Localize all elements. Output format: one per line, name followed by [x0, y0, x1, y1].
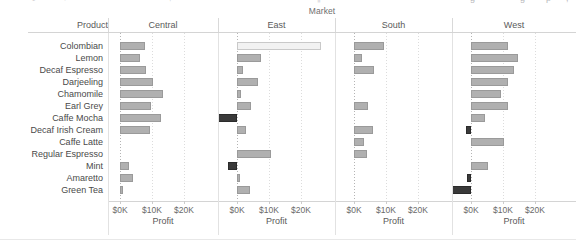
bar[interactable] [120, 78, 153, 86]
axis-tick-label: $0K [455, 205, 487, 215]
bar[interactable] [120, 174, 133, 182]
panel-west [452, 33, 576, 201]
column-group-title: Market [0, 6, 576, 16]
plot-region [0, 33, 576, 201]
market-label: Market [309, 6, 336, 16]
axis-line-east [218, 201, 335, 202]
gridline-20000 [535, 33, 536, 199]
axis-tick-label: $10K [136, 205, 168, 215]
axis-tick [152, 201, 153, 204]
axis-title-east[interactable]: Profit [218, 216, 335, 226]
bar[interactable] [471, 114, 485, 122]
axis-region: $0K$10K$20KProfit$0K$10K$20KProfit$0K$10… [0, 201, 576, 241]
bar[interactable] [120, 90, 163, 98]
bar[interactable] [237, 90, 241, 98]
bar[interactable] [237, 78, 258, 86]
bar[interactable] [237, 42, 321, 50]
bar[interactable] [354, 150, 367, 158]
toolbar-item-1[interactable]: ← [62, 0, 71, 3]
bar[interactable] [354, 54, 362, 62]
bar[interactable] [354, 102, 368, 110]
toolbar-item-7[interactable]: , [566, 0, 569, 3]
axis-tick [471, 201, 472, 204]
bar[interactable] [452, 186, 471, 194]
panel-divider-1 [218, 33, 219, 201]
header-product-column[interactable]: Product [0, 18, 113, 32]
bar[interactable] [228, 162, 237, 170]
bar[interactable] [120, 186, 123, 194]
bar[interactable] [354, 66, 374, 74]
bar[interactable] [237, 66, 243, 74]
axis-tick-label: $20K [402, 205, 434, 215]
header-divider-3 [452, 18, 453, 32]
gridline-20000 [184, 33, 185, 199]
bar[interactable] [237, 126, 246, 134]
axis-tick-label: $10K [487, 205, 519, 215]
toolbar-item-2[interactable]: ↑ [168, 0, 173, 3]
header-divider-2 [335, 18, 336, 32]
bar[interactable] [120, 54, 140, 62]
toolbar-item-5[interactable]: ɡ [520, 0, 525, 3]
toolbar-item-3[interactable]: ¶ [316, 0, 321, 3]
gridline-20000 [418, 33, 419, 199]
bar[interactable] [471, 102, 508, 110]
bar[interactable] [120, 42, 145, 50]
bar[interactable] [120, 162, 129, 170]
bar[interactable] [466, 126, 471, 134]
bar[interactable] [467, 174, 471, 182]
header-market-central[interactable]: Central [108, 18, 218, 32]
header-divider-1 [218, 18, 219, 32]
gridline-10000 [269, 33, 270, 199]
axis-tick [237, 201, 238, 204]
toolbar-item-6[interactable]: ρ [546, 0, 551, 3]
bar[interactable] [471, 162, 488, 170]
bar[interactable] [354, 42, 384, 50]
bar[interactable] [471, 54, 518, 62]
bar[interactable] [237, 186, 250, 194]
bar[interactable] [471, 42, 508, 50]
axis-title-west[interactable]: Profit [452, 216, 576, 226]
axis-tick-label: $20K [168, 205, 200, 215]
axis-divider-2 [335, 201, 336, 235]
panel-divider-3 [452, 33, 453, 201]
axis-tick-label: $10K [253, 205, 285, 215]
bar[interactable] [471, 78, 508, 86]
axis-line-central [108, 201, 218, 202]
axis-tick-label: $20K [519, 205, 551, 215]
axis-tick [120, 201, 121, 204]
toolbar-item-4[interactable]: ɡ [470, 0, 475, 3]
bar[interactable] [237, 54, 261, 62]
axis-tick-label: $0K [338, 205, 370, 215]
panel-divider-0 [108, 33, 109, 201]
bar[interactable] [354, 126, 373, 134]
axis-tick [269, 201, 270, 204]
panel-east [218, 33, 335, 201]
bar[interactable] [237, 150, 271, 158]
axis-tick [386, 201, 387, 204]
bar[interactable] [120, 114, 161, 122]
bar[interactable] [237, 174, 240, 182]
bar[interactable] [354, 138, 364, 146]
axis-divider-3 [452, 201, 453, 235]
axis-tick-label: $0K [221, 205, 253, 215]
gridline-20000 [301, 33, 302, 199]
bar[interactable] [237, 102, 251, 110]
bar[interactable] [471, 66, 514, 74]
toolbar-item-0[interactable]: ↺ [30, 0, 38, 3]
header-market-east[interactable]: East [218, 18, 335, 32]
axis-tick [503, 201, 504, 204]
gridline-10000 [386, 33, 387, 199]
axis-title-south[interactable]: Profit [335, 216, 452, 226]
bar[interactable] [471, 138, 504, 146]
header-divider-0 [108, 18, 109, 32]
bar[interactable] [120, 126, 150, 134]
axis-divider-1 [218, 201, 219, 235]
bar[interactable] [120, 102, 151, 110]
header-market-south[interactable]: South [335, 18, 452, 32]
bar[interactable] [218, 114, 237, 122]
bar[interactable] [120, 66, 146, 74]
axis-tick-label: $10K [370, 205, 402, 215]
header-market-west[interactable]: West [452, 18, 576, 32]
bar[interactable] [471, 90, 501, 98]
axis-title-central[interactable]: Profit [108, 216, 218, 226]
